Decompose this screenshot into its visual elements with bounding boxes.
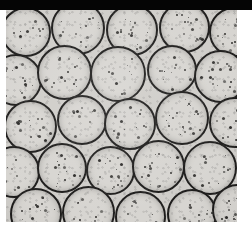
cell-inclusions	[12, 190, 60, 222]
top-black-band	[0, 0, 252, 10]
cell-inclusions	[134, 142, 183, 191]
cell-inclusions	[157, 93, 207, 143]
cell-15	[209, 97, 238, 148]
cell-7	[37, 45, 92, 100]
cell-inclusions	[6, 56, 40, 104]
cell-inclusions	[211, 99, 238, 146]
cell-inclusions	[149, 47, 195, 93]
cell-6	[6, 54, 42, 106]
cell-inclusions	[39, 47, 90, 98]
cell-inclusions	[196, 52, 238, 101]
cell-14	[155, 91, 209, 145]
cell-inclusions	[6, 102, 55, 151]
screenshot-root	[0, 0, 252, 242]
cell-19	[132, 140, 185, 193]
cell-inclusions	[106, 100, 154, 148]
cell-inclusions	[59, 97, 105, 143]
cell-1	[6, 10, 51, 57]
cell-inclusions	[169, 191, 215, 222]
cell-11	[6, 100, 57, 153]
cell-17	[37, 143, 87, 193]
cell-inclusions	[211, 10, 237, 55]
cell-23	[115, 191, 166, 223]
cell-8	[90, 46, 146, 102]
cell-9	[147, 45, 197, 95]
cell-inclusions	[64, 188, 113, 223]
cell-12	[57, 95, 107, 145]
cell-10	[194, 50, 238, 103]
cell-inclusions	[92, 48, 144, 100]
cell-inclusions	[6, 10, 49, 55]
micrograph-image	[6, 10, 237, 222]
cell-inclusions	[39, 145, 85, 191]
cell-inclusions	[117, 193, 164, 223]
